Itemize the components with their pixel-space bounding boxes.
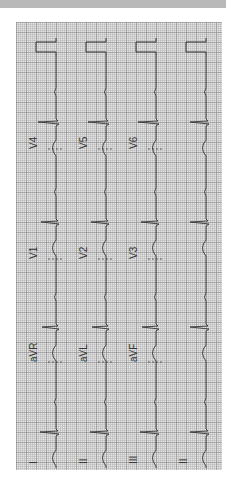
ecg-trace-column-2 bbox=[88, 56, 109, 468]
lead-label-V1: V1 bbox=[28, 247, 39, 259]
header-bar bbox=[0, 0, 226, 8]
ecg-trace-column-4 bbox=[190, 56, 209, 468]
ecg-trace-column-3 bbox=[138, 56, 159, 468]
lead-label-V5: V5 bbox=[78, 137, 89, 149]
ecg-traces bbox=[16, 22, 222, 470]
lead-label-aVL: aVL bbox=[78, 344, 89, 362]
lead-label-aVR: aVR bbox=[28, 343, 39, 362]
calibration-pulse bbox=[136, 38, 156, 56]
lead-label-aVF: aVF bbox=[128, 344, 139, 362]
lead-label-I: I bbox=[28, 461, 39, 464]
lead-label-V4: V4 bbox=[28, 137, 39, 149]
calibration-pulse bbox=[186, 38, 206, 56]
calibration-pulse bbox=[86, 38, 106, 56]
lead-label-rhythm-II: II bbox=[178, 458, 189, 464]
calibration-pulse bbox=[36, 38, 56, 56]
lead-label-III: III bbox=[128, 456, 139, 464]
lead-label-V6: V6 bbox=[128, 137, 139, 149]
ecg-trace-column-1 bbox=[38, 56, 59, 468]
lead-label-V3: V3 bbox=[128, 247, 139, 259]
ecg-paper: V4 V1 aVR I V5 V2 aVL II V6 V3 aVF III I… bbox=[16, 22, 222, 470]
lead-label-II: II bbox=[78, 458, 89, 464]
lead-label-V2: V2 bbox=[78, 247, 89, 259]
